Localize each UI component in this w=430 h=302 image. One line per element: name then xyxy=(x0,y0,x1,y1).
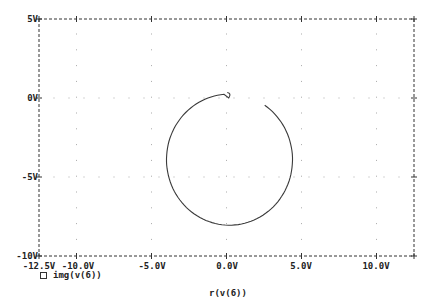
legend: img(v(6)) xyxy=(40,270,102,280)
y-tick-label-m5: -5V xyxy=(2,172,38,182)
y-tick-label-0: 0V xyxy=(2,93,38,103)
legend-square-marker-icon xyxy=(40,272,47,279)
data-trace-img-v6 xyxy=(167,92,293,225)
x-tick-label-m5: -5.0V xyxy=(138,261,165,271)
x-tick-label-0: 0.0V xyxy=(216,261,238,271)
y-tick-label-5: 5V xyxy=(2,14,38,24)
axis-frame xyxy=(39,19,414,256)
chart-plot-area xyxy=(0,0,430,302)
x-axis-title: r(v(6)) xyxy=(209,288,247,298)
legend-label: img(v(6)) xyxy=(53,270,102,280)
axis-ticks xyxy=(36,16,417,259)
y-tick-label-m10: -10V xyxy=(2,251,38,261)
x-tick-label-10: 10.0V xyxy=(362,261,389,271)
grid-dots xyxy=(54,34,400,256)
x-tick-label-5: 5.0V xyxy=(290,261,312,271)
